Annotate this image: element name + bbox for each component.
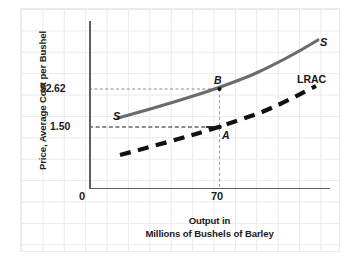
data-point-a-label: A	[222, 129, 230, 141]
lrac-curve	[120, 86, 316, 155]
x-axis-line	[89, 188, 330, 190]
x-axis-title-line2: Millions of Bushels of Barley	[89, 228, 330, 241]
chart-figure: $2.62 1.50 0 70 Price, Average Cost per …	[0, 0, 352, 263]
supply-curve-label-right: S	[320, 36, 327, 48]
y-axis-line	[89, 21, 91, 189]
supply-curve-label-left: S	[113, 110, 120, 122]
x-axis-tick-label-70: 70	[211, 190, 223, 202]
data-point-b-label: B	[214, 74, 222, 86]
x-axis-title: Output in Millions of Bushels of Barley	[89, 215, 330, 240]
x-axis-origin-label: 0	[79, 190, 85, 202]
y-axis-tick-label-150: 1.50	[50, 120, 70, 132]
lrac-curve-label: LRAC	[297, 73, 326, 85]
data-point-b-marker	[217, 87, 221, 91]
y-axis-title: Price, Average Cost per Bushel	[37, 21, 48, 181]
x-axis-title-line1: Output in	[89, 215, 330, 228]
